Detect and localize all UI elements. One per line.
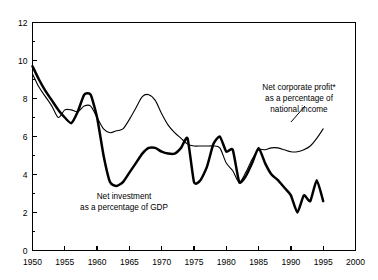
x-tick-label-1955: 1955 (55, 257, 74, 267)
annotation-line: Net investment (97, 192, 152, 201)
annotation-line: Net corporate profit* (262, 83, 336, 92)
x-tick-label-1970: 1970 (152, 257, 171, 267)
y-tick-label-12: 12 (18, 18, 28, 28)
x-tick-label-1960: 1960 (88, 257, 107, 267)
annotation-line: as a percentage of GDP (80, 203, 168, 212)
chart-container: 024681012 195019551960196519701975198019… (0, 0, 378, 280)
annotation-layer: Net investmentas a percentage of GDP Net… (80, 83, 336, 212)
x-tick-label-1965: 1965 (120, 257, 139, 267)
annotation-net-corporate-profit: Net corporate profit*as a percentage ofn… (262, 83, 336, 114)
x-axis-tick-labels: 1950195519601965197019751980198519901995… (23, 257, 365, 267)
x-tick-label-1990: 1990 (281, 257, 300, 267)
x-tick-label-1995: 1995 (314, 257, 333, 267)
y-tick-label-10: 10 (18, 56, 28, 66)
x-tick-label-1980: 1980 (217, 257, 236, 267)
annotation-line: national income (270, 105, 328, 114)
y-tick-label-4: 4 (23, 170, 28, 180)
annotation-line: as a percentage of (265, 94, 334, 103)
y-tick-label-8: 8 (23, 94, 28, 104)
y-axis-tick-labels: 024681012 (18, 18, 28, 256)
plot-frame (33, 23, 356, 251)
axis-frame (33, 23, 356, 251)
y-tick-label-0: 0 (23, 246, 28, 256)
x-tick-label-2000: 2000 (346, 257, 365, 267)
annotation-net-investment: Net investmentas a percentage of GDP (80, 192, 168, 212)
y-tick-label-6: 6 (23, 132, 28, 142)
x-tick-label-1975: 1975 (185, 257, 204, 267)
x-tick-label-1985: 1985 (249, 257, 268, 267)
y-tick-label-2: 2 (23, 208, 28, 218)
x-tick-label-1950: 1950 (23, 257, 42, 267)
line-chart: 024681012 195019551960196519701975198019… (0, 0, 378, 280)
